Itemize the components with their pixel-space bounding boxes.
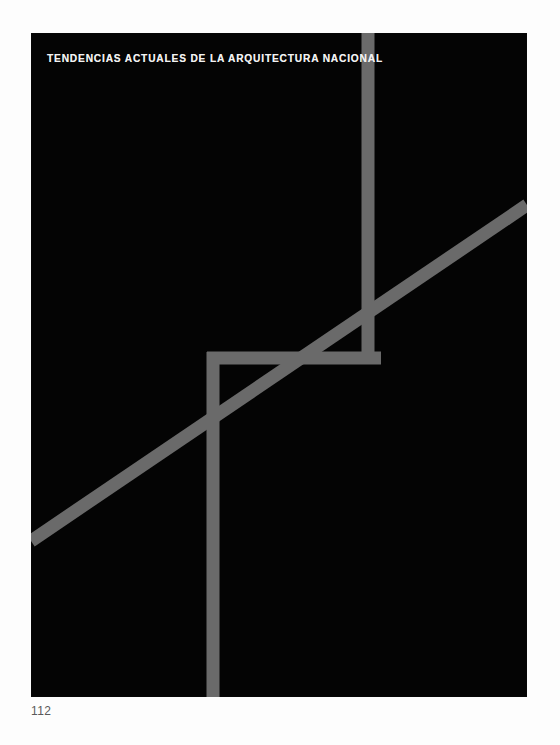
architecture-poster-plate: TENDENCIAS ACTUALES DE LA ARQUITECTURA N… <box>31 33 527 697</box>
page-title: TENDENCIAS ACTUALES DE LA ARQUITECTURA N… <box>47 53 383 64</box>
page-canvas: TENDENCIAS ACTUALES DE LA ARQUITECTURA N… <box>0 0 560 745</box>
rising-diagonal-bar <box>31 205 527 541</box>
geometric-artwork <box>31 33 527 697</box>
folio-page-number: 112 <box>31 705 51 717</box>
